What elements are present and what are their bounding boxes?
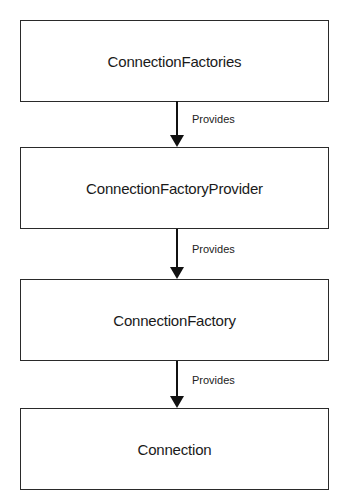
edge-arrow-3 [170, 361, 184, 408]
arrowhead-icon [170, 135, 184, 147]
edge-label: Provides [192, 374, 235, 386]
node-label: ConnectionFactories [108, 53, 242, 70]
arrow-shaft [176, 101, 178, 137]
node-connection-factory: ConnectionFactory [20, 279, 329, 361]
arrow-shaft [176, 229, 178, 269]
node-label: Connection [138, 441, 212, 458]
node-label: ConnectionFactoryProvider [86, 180, 263, 197]
node-label: ConnectionFactory [113, 312, 236, 329]
node-connection-factory-provider: ConnectionFactoryProvider [20, 147, 329, 229]
node-connection-factories: ConnectionFactories [20, 20, 329, 102]
arrowhead-icon [170, 396, 184, 408]
edge-arrow-2 [170, 229, 184, 279]
edge-label: Provides [192, 243, 235, 255]
edge-label: Provides [192, 113, 235, 125]
arrowhead-icon [170, 267, 184, 279]
arrow-shaft [176, 361, 178, 398]
node-connection: Connection [20, 408, 329, 490]
edge-arrow-1 [170, 101, 184, 147]
